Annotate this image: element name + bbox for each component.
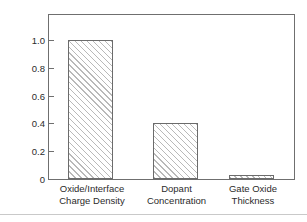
y-tick-mark [49,40,54,41]
x-category-line-1: Oxide/Interface [60,183,124,194]
y-tick-mark [49,151,54,152]
x-category-line-1: Dopant [161,183,192,194]
y-tick-mark [49,123,54,124]
y-tick-mark [49,96,54,97]
bar-oxide-interface-charge-density [68,40,113,179]
plot-area: 0 0.2 0.4 0.6 0.8 1.0 [48,14,295,180]
y-tick-label: 0.6 [32,90,45,101]
bottom-divider [0,214,307,215]
y-tick-label: 0.2 [32,146,45,157]
x-category-line-2: Charge Density [45,195,139,207]
y-tick-mark [49,68,54,69]
x-category-label-0: Oxide/Interface Charge Density [45,183,139,206]
y-tick-label: 0.8 [32,62,45,73]
chart-figure: Relative Variance 0 0.2 0.4 0.6 0.8 [0,0,307,222]
y-tick-label: 0.4 [32,118,45,129]
x-category-line-1: Gate Oxide [229,183,277,194]
plot-inner: 0 0.2 0.4 0.6 0.8 1.0 [49,15,294,179]
x-category-line-2: Thickness [208,195,298,207]
x-category-label-2: Gate Oxide Thickness [208,183,298,206]
bar-gate-oxide-thickness [229,175,274,179]
bar-dopant-concentration [153,123,198,179]
y-tick-mark [49,179,54,180]
y-tick-label: 1.0 [32,35,45,46]
